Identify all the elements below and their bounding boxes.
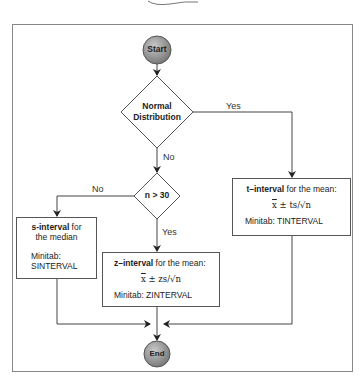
t-interval-box: t–interval for the mean: x ± ts/√n Minit… xyxy=(232,178,351,236)
s-interval-minitab-line2: SINTERVAL xyxy=(31,261,96,271)
t-interval-minitab: Minitab: TINTERVAL xyxy=(245,216,350,226)
decision-normal-line1: Normal xyxy=(121,101,193,112)
z-interval-title: z–interval for the mean: xyxy=(114,258,219,268)
normal-yes-label: Yes xyxy=(226,101,241,111)
arrow-n-no xyxy=(57,196,134,216)
start-label: Start xyxy=(140,44,174,55)
s-interval-title-line2: the median xyxy=(17,232,96,242)
s-interval-box: s-interval for the median Minitab: SINTE… xyxy=(16,217,97,279)
decision-normal-line2: Distribution xyxy=(121,112,193,123)
arrow-normal-yes xyxy=(193,112,292,177)
decision-n-text: n > 30 xyxy=(134,190,180,201)
t-interval-title: t–interval for the mean: xyxy=(233,184,350,194)
z-interval-minitab: Minitab: ZINTERVAL xyxy=(114,290,219,300)
end-label: End xyxy=(142,348,172,359)
z-interval-box: z–interval for the mean: x ± zs/√n Minit… xyxy=(102,252,220,307)
page-curl-decoration xyxy=(148,1,198,5)
n-yes-label: Yes xyxy=(162,227,177,237)
s-interval-title: s-interval for xyxy=(17,222,96,232)
z-interval-formula: x ± zs/√n xyxy=(103,274,219,284)
normal-no-label: No xyxy=(163,152,175,162)
s-interval-minitab-line1: Minitab: xyxy=(31,251,96,261)
decision-normal-text: Normal Distribution xyxy=(121,101,193,123)
n-no-label: No xyxy=(92,184,104,194)
t-interval-formula: x ± ts/√n xyxy=(233,200,350,210)
